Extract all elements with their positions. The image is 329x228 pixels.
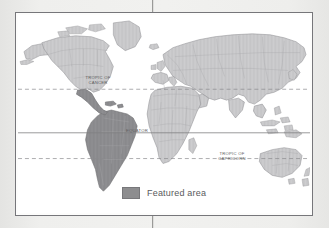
map-panel: TROPIC OF CANCER EQUATOR TROPIC OF CAPRI… [15,12,313,216]
tropic-of-cancer-label: TROPIC OF CANCER [76,75,120,85]
tropic-of-capricorn-label: TROPIC OF CAPRICORN [206,151,258,161]
legend-swatch-featured-area [122,187,140,199]
world-map-graphic [18,15,310,213]
map-legend: Featured area [122,187,206,199]
equator-label: EQUATOR [114,128,160,133]
legend-label-featured-area: Featured area [147,188,206,198]
map-plate: TROPIC OF CANCER EQUATOR TROPIC OF CAPRI… [18,15,310,213]
